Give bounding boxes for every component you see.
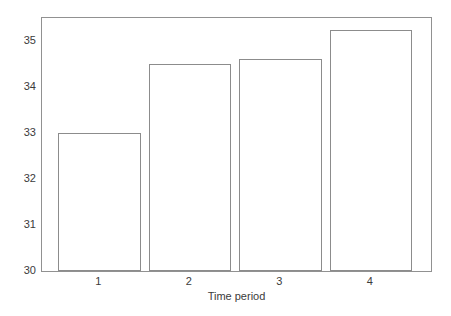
- y-tick-label-34: 34: [0, 79, 36, 93]
- x-tick-label-3: 3: [259, 274, 299, 288]
- y-tick-label-30: 30: [0, 263, 36, 277]
- y-tick-label-33: 33: [0, 125, 36, 139]
- x-tick-label-2: 2: [169, 274, 209, 288]
- bar-3: [239, 59, 322, 271]
- y-tick-label-35: 35: [0, 33, 36, 47]
- bar-2: [149, 64, 232, 271]
- plot-area: [41, 17, 432, 272]
- y-tick-label-31: 31: [0, 217, 36, 231]
- x-tick-label-4: 4: [350, 274, 390, 288]
- x-axis-label: Time period: [41, 289, 432, 303]
- y-tick-label-32: 32: [0, 171, 36, 185]
- bar-4: [330, 30, 413, 272]
- bar-1: [58, 133, 141, 271]
- x-tick-label-1: 1: [78, 274, 118, 288]
- bar-chart: 303132333435 1234 Time period: [0, 0, 451, 316]
